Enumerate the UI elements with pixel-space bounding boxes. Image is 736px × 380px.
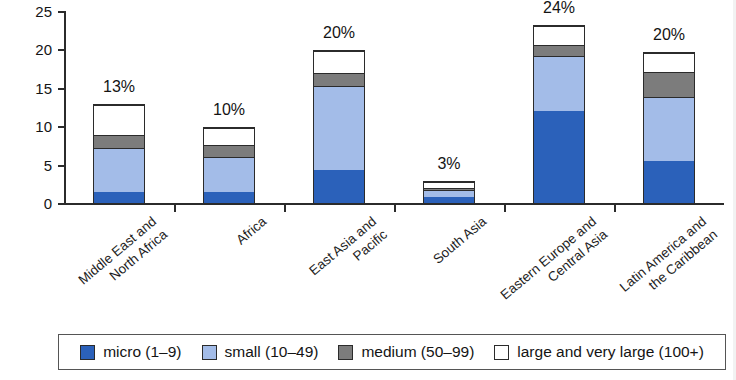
- x-axis-tick: [504, 205, 506, 212]
- legend-label: small (10–49): [225, 343, 319, 361]
- bar-segment-small: [94, 148, 144, 192]
- legend-item-large[interactable]: large and very large (100+): [494, 343, 704, 361]
- legend-swatch-large: [494, 345, 509, 360]
- bar-2: [203, 127, 255, 204]
- bar-segment-medium: [534, 45, 584, 56]
- y-axis-tick-label: 15: [12, 81, 52, 96]
- legend-swatch-micro: [80, 345, 95, 360]
- bar-total-label: 13%: [74, 79, 164, 95]
- bar-5: [533, 25, 585, 204]
- bar-segment-large: [534, 26, 584, 45]
- y-axis-tick-label: 0: [12, 196, 52, 211]
- bar-segment-small: [204, 157, 254, 192]
- bar-segment-micro: [94, 192, 144, 203]
- bar-total-label: 10%: [184, 102, 274, 118]
- bar-total-label: 3%: [404, 156, 494, 172]
- legend-swatch-medium: [338, 345, 353, 360]
- bar-segment-large: [314, 51, 364, 72]
- bar-segment-micro: [204, 192, 254, 203]
- bar-segment-large: [94, 105, 144, 135]
- bar-4: [423, 181, 475, 204]
- x-axis-tick: [394, 205, 396, 212]
- bar-total-label: 20%: [294, 25, 384, 41]
- bar-segment-medium: [644, 72, 694, 97]
- y-axis-tick-label: 20: [12, 42, 52, 57]
- bar-total-label: 24%: [514, 0, 604, 16]
- bar-segment-small: [644, 97, 694, 161]
- legend-label: medium (50–99): [361, 343, 474, 361]
- bar-segment-medium: [94, 135, 144, 148]
- bar-total-label: 20%: [624, 27, 714, 43]
- y-axis-tick-label: 5: [12, 158, 52, 173]
- legend-item-small[interactable]: small (10–49): [202, 343, 319, 361]
- bar-segment-micro: [644, 161, 694, 203]
- x-axis-tick: [614, 205, 616, 212]
- bar-segment-small: [314, 86, 364, 171]
- bar-1: [93, 104, 145, 204]
- bar-segment-large: [204, 128, 254, 144]
- chart-legend: micro (1–9)small (10–49)medium (50–99)la…: [58, 334, 726, 370]
- bar-segment-small: [424, 190, 474, 197]
- y-axis-tick-label: 10: [12, 119, 52, 134]
- bar-segment-micro: [314, 170, 364, 203]
- bar-segment-micro: [424, 197, 474, 203]
- y-axis-tick-label: 25: [12, 4, 52, 19]
- bar-segment-small: [534, 56, 584, 111]
- legend-label: large and very large (100+): [517, 343, 704, 361]
- bar-6: [643, 52, 695, 204]
- legend-item-micro[interactable]: micro (1–9): [80, 343, 181, 361]
- x-axis-tick: [174, 205, 176, 212]
- stacked-bar-chart: percent 2520151050 13%10%20%3%24%20% Mid…: [0, 0, 736, 380]
- bar-segment-micro: [534, 111, 584, 203]
- legend-swatch-small: [202, 345, 217, 360]
- bar-segment-medium: [314, 73, 364, 86]
- bar-segment-large: [644, 53, 694, 72]
- bar-segment-medium: [204, 145, 254, 157]
- x-axis-tick: [284, 205, 286, 212]
- legend-label: micro (1–9): [103, 343, 181, 361]
- bar-3: [313, 50, 365, 204]
- legend-item-medium[interactable]: medium (50–99): [338, 343, 474, 361]
